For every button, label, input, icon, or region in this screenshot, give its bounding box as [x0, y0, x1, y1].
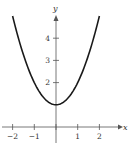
x-tick-label: 2 [97, 132, 102, 141]
y-tick-label: 2 [45, 78, 50, 87]
y-axis-label: y [52, 4, 58, 13]
x-tick-label: 1 [75, 132, 80, 141]
chart-plot: −2−112234 x y [0, 0, 128, 147]
y-tick-label: 4 [45, 34, 50, 43]
y-axis-arrow-icon [54, 15, 59, 21]
x-axis-label: x [123, 123, 128, 132]
axes [2, 15, 123, 143]
x-tick-label: −1 [29, 132, 40, 141]
y-tick-label: 3 [45, 56, 50, 65]
x-tick-label: −2 [7, 132, 18, 141]
